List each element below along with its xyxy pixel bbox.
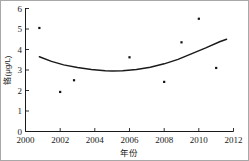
- x-tick-label-2012: 2012: [225, 135, 243, 145]
- data-points-group: [38, 18, 217, 93]
- y-tick-label-1: 1: [18, 106, 23, 116]
- x-tick-label-2004: 2004: [86, 135, 105, 145]
- data-point: [163, 81, 165, 83]
- data-point: [59, 91, 61, 93]
- x-tick-label-2006: 2006: [121, 135, 140, 145]
- y-tick-label-4: 4: [18, 45, 23, 55]
- chart-figure: 0 1 2 3 4 5 6 2000 2002 2004 2006 2008 2…: [0, 0, 249, 161]
- x-tick-label-2010: 2010: [190, 135, 209, 145]
- y-tick-label-3: 3: [18, 65, 23, 75]
- scatter-plot-svg: 0 1 2 3 4 5 6 2000 2002 2004 2006 2008 2…: [1, 1, 249, 161]
- x-tick-label-2000: 2000: [17, 135, 36, 145]
- data-point: [180, 41, 182, 43]
- data-point: [38, 27, 40, 29]
- x-axis-title: 年份: [120, 148, 138, 158]
- data-point: [215, 67, 217, 69]
- x-tick-label-2002: 2002: [51, 135, 69, 145]
- y-tick-label-2: 2: [18, 86, 23, 96]
- y-tick-label-5: 5: [18, 24, 23, 34]
- data-point: [198, 18, 200, 20]
- y-axis-title: 铬(μg/L): [2, 55, 12, 84]
- x-tick-label-2008: 2008: [155, 135, 174, 145]
- x-tick-marks: [26, 128, 234, 132]
- data-point: [128, 56, 130, 58]
- fitted-trend-curve: [39, 39, 226, 71]
- y-tick-label-6: 6: [18, 4, 23, 14]
- y-tick-marks: [26, 9, 30, 132]
- data-point: [73, 79, 75, 81]
